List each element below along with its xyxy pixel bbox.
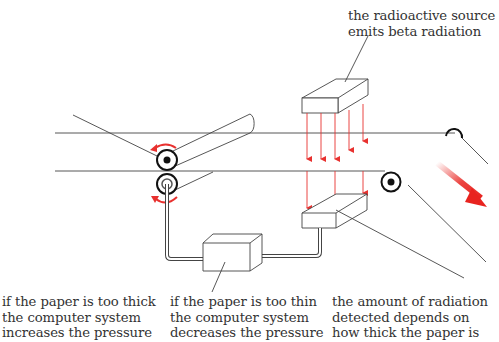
label-line: the radioactive source	[348, 8, 495, 24]
label-line: if the paper is too thin	[170, 294, 323, 310]
label-line: the computer system	[170, 310, 323, 326]
label-line: emits beta radiation	[348, 24, 495, 40]
label-line: the amount of radiation	[332, 294, 488, 310]
label-line: how thick the paper is	[332, 325, 488, 341]
paper-direction-arrow-icon	[437, 163, 487, 207]
label-too-thin: if the paper is too thin the computer sy…	[170, 294, 323, 341]
paper-sheet	[55, 133, 488, 262]
label-line: decreases the pressure	[170, 325, 323, 341]
label-line: if the paper is too thick	[2, 294, 156, 310]
rotation-arrow-bottom-icon	[151, 196, 177, 203]
guide-roller	[382, 173, 401, 192]
label-line: detected depends on	[332, 310, 488, 326]
detector-box	[302, 194, 464, 278]
paper-thickness-diagram	[0, 0, 499, 342]
label-detector: the amount of radiation detected depends…	[332, 294, 488, 341]
top-roller	[73, 114, 254, 170]
label-radioactive-source: the radioactive source emits beta radiat…	[348, 8, 495, 39]
computer-box	[203, 234, 262, 292]
label-line: the computer system	[2, 310, 156, 326]
label-too-thick: if the paper is too thick the computer s…	[2, 294, 156, 341]
radiation-rays	[307, 104, 363, 208]
radioactive-source-box	[302, 36, 368, 113]
label-line: increases the pressure	[2, 325, 156, 341]
exit-roller	[446, 129, 462, 138]
